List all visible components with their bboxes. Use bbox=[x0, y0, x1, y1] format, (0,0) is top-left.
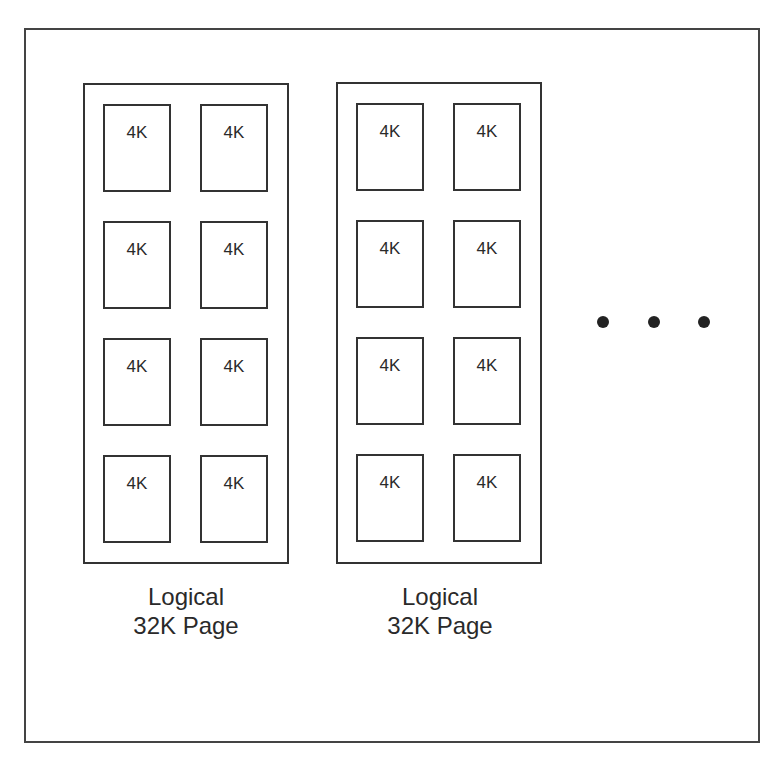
cell-label: 4K bbox=[105, 123, 169, 143]
logical-page-2-caption: Logical 32K Page bbox=[330, 582, 550, 640]
cell-label: 4K bbox=[358, 473, 422, 493]
physical-page-cell: 4K bbox=[200, 221, 268, 309]
cell-label: 4K bbox=[202, 123, 266, 143]
logical-page-1: 4K 4K 4K 4K 4K 4K 4K 4K bbox=[83, 83, 289, 564]
physical-page-cell: 4K bbox=[356, 220, 424, 308]
cell-label: 4K bbox=[358, 239, 422, 259]
physical-page-cell: 4K bbox=[103, 104, 171, 192]
cell-label: 4K bbox=[358, 356, 422, 376]
cell-label: 4K bbox=[202, 240, 266, 260]
cell-label: 4K bbox=[105, 474, 169, 494]
physical-page-cell: 4K bbox=[453, 220, 521, 308]
cell-label: 4K bbox=[358, 122, 422, 142]
logical-page-2: 4K 4K 4K 4K 4K 4K 4K 4K bbox=[336, 82, 542, 564]
ellipsis-dot-icon bbox=[698, 316, 710, 328]
ellipsis-dot-icon bbox=[597, 316, 609, 328]
caption-line-2: 32K Page bbox=[76, 611, 296, 640]
logical-page-1-caption: Logical 32K Page bbox=[76, 582, 296, 640]
cell-label: 4K bbox=[455, 239, 519, 259]
physical-page-cell: 4K bbox=[453, 454, 521, 542]
physical-page-cell: 4K bbox=[200, 455, 268, 543]
cell-label: 4K bbox=[105, 357, 169, 377]
cell-label: 4K bbox=[455, 473, 519, 493]
physical-page-cell: 4K bbox=[103, 455, 171, 543]
physical-page-cell: 4K bbox=[453, 337, 521, 425]
physical-page-cell: 4K bbox=[103, 221, 171, 309]
physical-page-cell: 4K bbox=[200, 338, 268, 426]
physical-page-cell: 4K bbox=[356, 337, 424, 425]
caption-line-1: Logical bbox=[330, 582, 550, 611]
physical-page-cell: 4K bbox=[103, 338, 171, 426]
physical-page-cell: 4K bbox=[453, 103, 521, 191]
caption-line-1: Logical bbox=[76, 582, 296, 611]
cell-label: 4K bbox=[455, 356, 519, 376]
cell-label: 4K bbox=[202, 357, 266, 377]
ellipsis-dot-icon bbox=[648, 316, 660, 328]
cell-label: 4K bbox=[202, 474, 266, 494]
caption-line-2: 32K Page bbox=[330, 611, 550, 640]
cell-label: 4K bbox=[455, 122, 519, 142]
physical-page-cell: 4K bbox=[356, 454, 424, 542]
physical-page-cell: 4K bbox=[200, 104, 268, 192]
cell-label: 4K bbox=[105, 240, 169, 260]
physical-page-cell: 4K bbox=[356, 103, 424, 191]
